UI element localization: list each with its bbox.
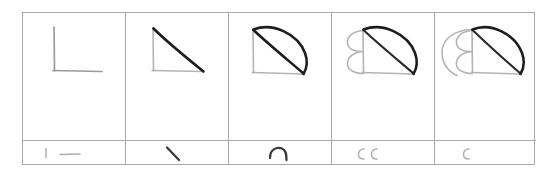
outer-arc-icon (254, 27, 307, 74)
panel-1-strip (23, 140, 125, 164)
left-arc-upper-icon (456, 31, 472, 52)
diagonal-hypotenuse-icon (364, 30, 414, 74)
c-arc-icon (464, 149, 470, 159)
c-arc-icon (372, 149, 378, 159)
left-arc-lower-icon (347, 52, 363, 74)
diagonal-stroke-icon (167, 148, 179, 161)
horizontal-line-icon (152, 71, 203, 72)
left-arc-upper-icon (347, 31, 363, 52)
panel-2-canvas (126, 13, 228, 142)
left-arc-lower-icon (456, 52, 472, 74)
horizontal-line-icon (363, 73, 414, 75)
arc-hook-icon (270, 148, 287, 160)
panel-1-canvas (23, 13, 125, 142)
panel-5-strip (435, 140, 536, 164)
panel-1[interactable] (23, 13, 125, 164)
panel-4[interactable] (331, 13, 434, 164)
vertical-line-icon (54, 27, 55, 71)
diagonal-hypotenuse-icon (154, 29, 204, 72)
horizontal-line-icon (253, 73, 304, 75)
diagonal-hypotenuse-icon (473, 30, 521, 74)
panel-4-strip (332, 140, 434, 164)
panel-3[interactable] (228, 13, 331, 164)
horizontal-dash-icon (60, 154, 80, 155)
panel-5-canvas (435, 13, 536, 142)
panel-2-strip (126, 140, 228, 164)
panel-3-canvas (229, 13, 331, 142)
panel-3-strip (229, 140, 331, 164)
vertical-line-icon (153, 28, 154, 71)
panel-2[interactable] (125, 13, 228, 164)
screenshot-root (0, 0, 559, 172)
panel-4-canvas (332, 13, 434, 142)
storyboard-frame (22, 12, 535, 165)
horizontal-line-icon (53, 71, 102, 72)
c-arc-icon (359, 149, 365, 159)
outer-arc-icon (364, 27, 417, 74)
horizontal-line-icon (472, 73, 521, 75)
vertical-line-icon (253, 30, 254, 73)
outer-arc-icon (473, 27, 524, 74)
panel-5[interactable] (434, 13, 536, 164)
diagonal-hypotenuse-icon (254, 30, 304, 74)
